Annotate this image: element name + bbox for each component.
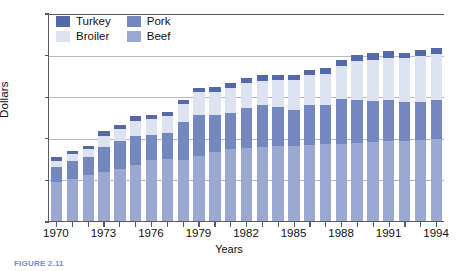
legend-label-beef: Beef bbox=[147, 30, 171, 42]
x-tick-label-1973: 1973 bbox=[91, 227, 117, 239]
x-tick-mark-1986 bbox=[309, 222, 310, 227]
bar-segment-beef-1979 bbox=[193, 156, 204, 221]
legend-item-broiler: Broiler bbox=[56, 30, 111, 42]
bar-1985 bbox=[288, 75, 299, 221]
bar-segment-beef-1970 bbox=[51, 182, 62, 221]
x-tick-label-1979: 1979 bbox=[186, 227, 212, 239]
bar-segment-beef-1980 bbox=[209, 152, 220, 221]
bar-segment-beef-1988 bbox=[336, 144, 347, 221]
bar-segment-pork-1986 bbox=[304, 105, 315, 145]
bar-segment-pork-1979 bbox=[193, 115, 204, 156]
bar-segment-beef-1981 bbox=[225, 149, 236, 221]
bar-segment-pork-1989 bbox=[351, 100, 362, 143]
bar-1988 bbox=[336, 60, 347, 221]
bar-segment-beef-1993 bbox=[415, 140, 426, 221]
bar-1983 bbox=[257, 75, 268, 221]
y-axis-title: Dollars bbox=[0, 82, 10, 119]
bar-segment-broiler-1989 bbox=[351, 61, 362, 100]
bar-segment-pork-1985 bbox=[288, 110, 299, 146]
x-tick-label-1994: 1994 bbox=[423, 227, 449, 239]
bar-segment-pork-1984 bbox=[272, 107, 283, 146]
bar-1992 bbox=[399, 53, 410, 221]
legend-swatch-turkey-icon bbox=[56, 16, 70, 27]
x-tick-mark-1993 bbox=[420, 222, 421, 227]
x-tick-label-1991: 1991 bbox=[376, 227, 402, 239]
bar-segment-broiler-1986 bbox=[304, 75, 315, 105]
bar-segment-broiler-1984 bbox=[272, 80, 283, 107]
bar-1981 bbox=[225, 83, 236, 221]
bar-1973 bbox=[98, 131, 109, 221]
bar-segment-beef-1983 bbox=[257, 147, 268, 221]
x-tick-mark-1982 bbox=[246, 222, 247, 227]
bar-segment-pork-1994 bbox=[431, 100, 442, 139]
bar-segment-broiler-1988 bbox=[336, 66, 347, 99]
bar-segment-pork-1990 bbox=[367, 101, 378, 142]
x-tick-label-1970: 1970 bbox=[43, 227, 69, 239]
legend-item-pork: Pork bbox=[127, 15, 171, 27]
bar-segment-broiler-1985 bbox=[288, 80, 299, 110]
x-tick-mark-1985 bbox=[294, 222, 295, 227]
legend-label-broiler: Broiler bbox=[76, 30, 109, 42]
x-tick-mark-1988 bbox=[341, 222, 342, 227]
bar-1987 bbox=[320, 68, 331, 221]
bar-1990 bbox=[367, 53, 378, 221]
bar-1993 bbox=[415, 50, 426, 221]
bar-segment-broiler-1973 bbox=[98, 136, 109, 147]
x-tick-label-1985: 1985 bbox=[281, 227, 307, 239]
bar-1971 bbox=[67, 151, 78, 221]
chart-legend: TurkeyPorkBroilerBeef bbox=[56, 15, 170, 42]
bar-segment-broiler-1987 bbox=[320, 74, 331, 106]
bar-segment-beef-1972 bbox=[83, 175, 94, 221]
bar-segment-broiler-1993 bbox=[415, 56, 426, 102]
x-tick-label-1982: 1982 bbox=[233, 227, 259, 239]
bar-segment-beef-1984 bbox=[272, 146, 283, 221]
x-tick-mark-1973 bbox=[103, 222, 104, 227]
x-tick-mark-1987 bbox=[325, 222, 326, 227]
x-tick-mark-1971 bbox=[72, 222, 73, 227]
bar-1991 bbox=[383, 51, 394, 221]
legend-swatch-beef-icon bbox=[127, 31, 141, 42]
bar-segment-pork-1972 bbox=[83, 157, 94, 176]
x-tick-mark-1989 bbox=[357, 222, 358, 227]
bar-series-group bbox=[49, 14, 444, 221]
bar-segment-pork-1992 bbox=[399, 102, 410, 142]
x-tick-mark-1981 bbox=[230, 222, 231, 227]
bar-segment-pork-1981 bbox=[225, 113, 236, 150]
x-tick-mark-1974 bbox=[119, 222, 120, 227]
x-tick-mark-1975 bbox=[135, 222, 136, 227]
figure-caption: FIGURE 2.11 bbox=[14, 259, 64, 268]
bar-1977 bbox=[162, 112, 173, 221]
bar-1975 bbox=[130, 116, 141, 221]
bar-segment-beef-1982 bbox=[241, 148, 252, 221]
x-tick-mark-1983 bbox=[262, 222, 263, 227]
legend-swatch-broiler-icon bbox=[56, 31, 70, 42]
bar-segment-beef-1994 bbox=[431, 139, 442, 221]
bar-1972 bbox=[83, 146, 94, 221]
bar-segment-broiler-1974 bbox=[114, 129, 125, 141]
bar-1978 bbox=[178, 100, 189, 221]
bar-segment-pork-1993 bbox=[415, 102, 426, 141]
bar-1982 bbox=[241, 78, 252, 221]
bar-segment-pork-1980 bbox=[209, 115, 220, 152]
bar-segment-pork-1973 bbox=[98, 147, 109, 173]
bar-segment-beef-1974 bbox=[114, 169, 125, 221]
bar-segment-broiler-1983 bbox=[257, 81, 268, 106]
x-tick-mark-1994 bbox=[436, 222, 437, 227]
bar-segment-broiler-1982 bbox=[241, 83, 252, 108]
bar-segment-pork-1971 bbox=[67, 161, 78, 179]
bar-segment-beef-1976 bbox=[146, 160, 157, 221]
bar-segment-pork-1988 bbox=[336, 99, 347, 144]
bar-segment-broiler-1991 bbox=[383, 58, 394, 100]
x-tick-mark-1984 bbox=[278, 222, 279, 227]
bar-segment-broiler-1990 bbox=[367, 60, 378, 101]
x-tick-mark-1990 bbox=[373, 222, 374, 227]
legend-swatch-pork-icon bbox=[127, 16, 141, 27]
bar-segment-pork-1975 bbox=[130, 136, 141, 165]
x-tick-mark-1978 bbox=[183, 222, 184, 227]
bar-segment-pork-1970 bbox=[51, 167, 62, 183]
bar-1984 bbox=[272, 75, 283, 221]
x-tick-mark-1979 bbox=[198, 222, 199, 227]
bar-segment-beef-1973 bbox=[98, 172, 109, 221]
legend-item-beef: Beef bbox=[127, 30, 171, 42]
bar-segment-beef-1990 bbox=[367, 142, 378, 221]
